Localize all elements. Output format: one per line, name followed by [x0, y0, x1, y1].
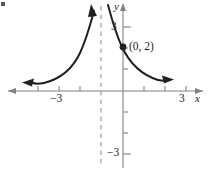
- y-tick-label-3: 3: [111, 21, 117, 33]
- exponential-graph-figure: y x 3 −3 −3 3 (0, 2): [0, 0, 213, 182]
- x-axis: [8, 88, 203, 94]
- point-label: (0, 2): [129, 41, 154, 53]
- x-tick-label-neg3: −3: [50, 93, 62, 105]
- y-axis-label: y: [114, 1, 119, 12]
- curve-left-branch: [22, 4, 97, 87]
- x-tick-label-3: 3: [179, 93, 185, 105]
- y-axis: [120, 3, 126, 168]
- point-marker-0-2: [120, 44, 127, 51]
- y-tick-label-neg3: −3: [107, 147, 119, 159]
- x-axis-label: x: [195, 93, 200, 104]
- x-axis-ticks: [38, 86, 186, 91]
